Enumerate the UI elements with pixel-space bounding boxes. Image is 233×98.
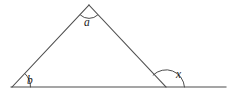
triangle-left-side	[12, 5, 89, 87]
apex-angle-label: a	[84, 16, 90, 28]
geometry-figure: a b x	[0, 0, 233, 98]
exterior-angle-label: x	[175, 68, 182, 80]
geometry-diagram-svg: a b x	[0, 0, 233, 98]
triangle-right-side	[89, 5, 166, 87]
left-base-angle-label: b	[27, 74, 33, 86]
